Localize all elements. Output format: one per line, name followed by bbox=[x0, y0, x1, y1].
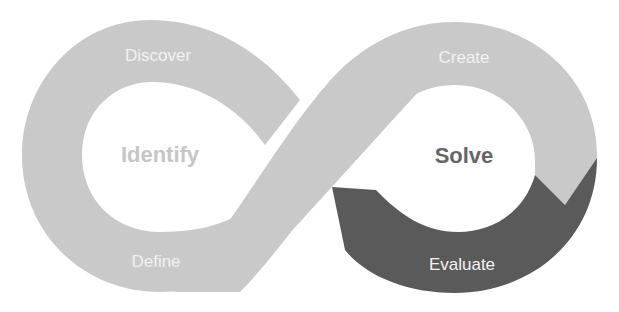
infinity-loop-graphic bbox=[0, 0, 619, 312]
hub-label-solve: Solve bbox=[435, 143, 494, 169]
stage-label-create: Create bbox=[438, 48, 489, 68]
stage-label-define: Define bbox=[131, 252, 180, 272]
stage-label-evaluate: Evaluate bbox=[429, 255, 495, 275]
stage-label-discover: Discover bbox=[125, 46, 191, 66]
hub-label-identify: Identify bbox=[121, 142, 199, 168]
